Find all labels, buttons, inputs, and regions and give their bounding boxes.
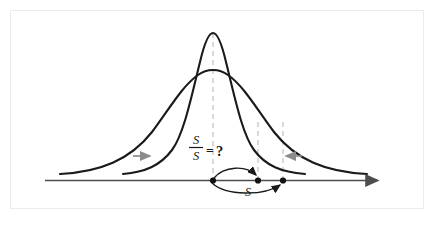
ratio-numerator: S [193, 133, 200, 147]
ratio-equals-sign: = [206, 143, 214, 158]
curve-wide-flat [60, 70, 367, 174]
curve-narrow-tall [123, 33, 305, 174]
point-mid [255, 177, 261, 183]
point-shifted [280, 177, 286, 183]
ratio-question-mark: ? [216, 143, 223, 159]
point-mean [210, 177, 216, 183]
shift-label: S [245, 185, 251, 199]
ratio-denominator: S [193, 149, 200, 163]
figure-root: S S = ? S [0, 0, 435, 227]
shift-arc-upper [214, 168, 256, 178]
distribution-figure: S S = ? S [0, 0, 435, 227]
